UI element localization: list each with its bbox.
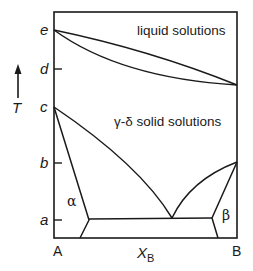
- tick-label-e: e: [40, 22, 48, 37]
- tick-label-b: b: [40, 155, 48, 170]
- beta-boundary: [212, 162, 237, 238]
- x-axis-right-label: B: [232, 244, 241, 258]
- tick-label-c: c: [40, 99, 48, 114]
- x-axis-label: XB: [137, 245, 154, 261]
- region-liquid-label: liquid solutions: [137, 24, 226, 38]
- region-solid-label: γ-δ solid solutions: [114, 115, 221, 129]
- alpha-boundary: [54, 107, 89, 238]
- eutectoid-line: [89, 218, 212, 219]
- region-alpha-label: α: [67, 194, 76, 208]
- solidus-curve: [54, 30, 237, 85]
- temperature-arrow-icon: [15, 64, 22, 98]
- y-axis-label: T: [12, 100, 21, 115]
- phase-diagram-plot: [0, 0, 253, 271]
- x-axis-label-main: X: [137, 244, 147, 261]
- liquidus-curve: [54, 30, 237, 85]
- tick-label-d: d: [40, 61, 48, 76]
- tick-label-a: a: [40, 212, 48, 227]
- region-beta-label: β: [222, 208, 230, 222]
- x-axis-label-sub: B: [147, 252, 154, 264]
- y-axis-ticks: [54, 69, 62, 220]
- x-axis-left-label: A: [53, 244, 62, 258]
